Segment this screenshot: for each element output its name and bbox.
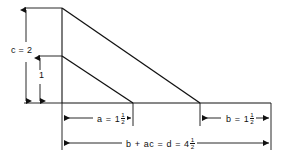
label-width-a: a = 112 <box>95 112 127 126</box>
label-height-c: c = 2 <box>9 46 34 55</box>
label-width-b-fraction: 12 <box>250 112 254 126</box>
label-inner-height-text: 1 <box>39 70 44 80</box>
label-width-a-fraction: 12 <box>121 112 125 126</box>
label-total-d: b + ac = d = 412 <box>124 137 197 151</box>
dimension-c <box>24 8 62 103</box>
label-width-a-denominator: 2 <box>121 119 125 125</box>
label-width-b: b = 112 <box>224 112 256 126</box>
label-total-d-denominator: 2 <box>190 144 194 150</box>
triangle-outline <box>62 8 271 103</box>
label-inner-height: 1 <box>37 71 46 80</box>
diagram-canvas: c = 2 1 a = 112 b = 112 b + ac = d = 412 <box>0 0 284 159</box>
label-width-b-denominator: 2 <box>250 119 254 125</box>
label-total-d-prefix: b + ac = d = 4 <box>126 139 190 149</box>
outer-hypotenuse <box>62 8 200 103</box>
inner-hypotenuse <box>62 56 133 103</box>
label-total-d-fraction: 12 <box>190 137 194 151</box>
label-height-c-text: c = 2 <box>11 45 32 55</box>
label-width-b-prefix: b = 1 <box>226 114 249 124</box>
label-width-a-prefix: a = 1 <box>97 114 120 124</box>
